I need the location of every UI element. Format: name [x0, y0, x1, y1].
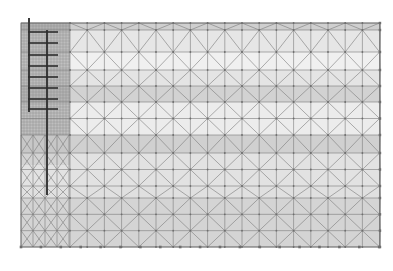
mesh-node — [344, 134, 346, 136]
mesh-node — [155, 169, 157, 171]
mesh-node — [155, 185, 157, 187]
mesh-node — [344, 51, 346, 53]
mesh-node — [207, 152, 209, 154]
mesh-node — [121, 69, 123, 71]
mesh-node — [104, 22, 106, 24]
mesh-node — [224, 85, 226, 87]
mesh-node — [310, 197, 312, 199]
mesh-node — [138, 185, 140, 187]
soil-layer-3 — [21, 52, 380, 70]
mesh-node — [293, 118, 295, 120]
mesh-node — [241, 230, 243, 232]
mesh-node — [276, 185, 278, 187]
mesh-node — [241, 246, 243, 248]
mesh-node — [69, 213, 71, 215]
mesh-node — [327, 101, 329, 103]
mesh-node — [241, 29, 243, 31]
mesh-node — [241, 69, 243, 71]
mesh-node — [69, 22, 71, 24]
fixed-support-node — [358, 246, 361, 249]
mesh-node — [327, 69, 329, 71]
soil-layer-4 — [21, 70, 380, 86]
mesh-node — [310, 118, 312, 120]
mesh-node — [224, 213, 226, 215]
mesh-node — [224, 230, 226, 232]
mesh-node — [276, 51, 278, 53]
mesh-node — [207, 69, 209, 71]
mesh-node — [276, 22, 278, 24]
mesh-node — [293, 85, 295, 87]
mesh-node — [138, 101, 140, 103]
roller-support-node — [379, 213, 381, 215]
mesh-node — [172, 51, 174, 53]
roller-support-node — [379, 85, 381, 87]
mesh-node — [344, 169, 346, 171]
mesh-node — [104, 134, 106, 136]
mesh-node — [258, 230, 260, 232]
fixed-support-node — [219, 246, 222, 249]
mesh-node — [121, 230, 123, 232]
mesh-node — [224, 197, 226, 199]
mesh-node — [258, 101, 260, 103]
mesh-node — [138, 69, 140, 71]
mesh-node — [241, 51, 243, 53]
mesh-node — [207, 169, 209, 171]
mesh-node — [172, 197, 174, 199]
mesh-node — [344, 29, 346, 31]
mesh-node — [293, 69, 295, 71]
mesh-node — [327, 230, 329, 232]
mesh-node — [327, 29, 329, 31]
fixed-support-node — [298, 246, 301, 249]
mesh-node — [362, 197, 364, 199]
mesh-node — [104, 213, 106, 215]
mesh-node — [86, 213, 88, 215]
roller-support-node — [379, 134, 381, 136]
mesh-node — [69, 118, 71, 120]
roller-support-node — [379, 69, 381, 71]
mesh-node — [207, 213, 209, 215]
mesh-node — [310, 185, 312, 187]
mesh-node — [104, 29, 106, 31]
mesh-node — [293, 230, 295, 232]
mesh-node — [86, 51, 88, 53]
fe-mesh-diagram — [0, 0, 393, 271]
mesh-node — [69, 69, 71, 71]
mesh-node — [276, 29, 278, 31]
mesh-node — [344, 230, 346, 232]
fixed-support-node — [99, 246, 102, 249]
mesh-node — [276, 230, 278, 232]
mesh-node — [190, 230, 192, 232]
mesh-node — [207, 29, 209, 31]
mesh-node — [362, 134, 364, 136]
mesh-node — [172, 69, 174, 71]
fixed-support-node — [338, 246, 341, 249]
mesh-node — [207, 230, 209, 232]
mesh-node — [362, 69, 364, 71]
mesh-node — [69, 101, 71, 103]
mesh-node — [258, 185, 260, 187]
mesh-node — [344, 22, 346, 24]
mesh-node — [362, 246, 364, 248]
soil-layer-2 — [21, 30, 380, 52]
mesh-node — [362, 29, 364, 31]
mesh-node — [121, 169, 123, 171]
mesh-node — [310, 213, 312, 215]
mesh-node — [207, 185, 209, 187]
mesh-node — [344, 69, 346, 71]
mesh-node — [190, 85, 192, 87]
mesh-node — [344, 85, 346, 87]
mesh-node — [172, 230, 174, 232]
mesh-node — [276, 101, 278, 103]
mesh-node — [276, 246, 278, 248]
mesh-node — [190, 51, 192, 53]
fixed-support-node — [79, 246, 82, 249]
mesh-node — [121, 213, 123, 215]
mesh-node — [86, 246, 88, 248]
mesh-node — [241, 169, 243, 171]
mesh-node — [86, 29, 88, 31]
mesh-node — [362, 185, 364, 187]
mesh-node — [327, 118, 329, 120]
mesh-node — [241, 197, 243, 199]
mesh-node — [344, 246, 346, 248]
mesh-node — [310, 134, 312, 136]
